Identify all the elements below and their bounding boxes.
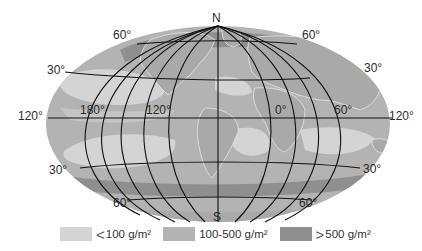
lon-label-60e: 60° bbox=[334, 104, 352, 116]
greater-than-symbol: > bbox=[316, 226, 325, 243]
lon-label-120e-left: 120° bbox=[18, 110, 43, 122]
lat-label-30n-left: 30° bbox=[47, 64, 65, 76]
legend-label-high: 500 g/m² bbox=[325, 228, 370, 240]
lat-label-30n-right: 30° bbox=[364, 62, 382, 74]
less-than-symbol: < bbox=[96, 226, 105, 243]
legend-swatch-low bbox=[60, 227, 92, 241]
lat-label-30s-right: 30° bbox=[363, 163, 381, 175]
lon-label-0: 0° bbox=[275, 104, 286, 116]
world-map bbox=[0, 0, 422, 251]
lat-label-60s-left: 60° bbox=[113, 197, 131, 209]
lat-label-60s-right: 60° bbox=[299, 197, 317, 209]
legend-swatch-mid bbox=[163, 227, 195, 241]
lat-label-60n-right: 60° bbox=[302, 29, 320, 41]
legend-label-low: 100 g/m² bbox=[106, 228, 151, 240]
legend-item-low: < 100 g/m² bbox=[60, 226, 151, 243]
lon-label-180: 180° bbox=[80, 104, 105, 116]
lat-label-30s-left: 30° bbox=[49, 164, 67, 176]
south-pole-label: S bbox=[213, 211, 221, 223]
legend: < 100 g/m² 100-500 g/m² > 500 g/m² bbox=[60, 226, 383, 242]
lat-label-60n-left: 60° bbox=[113, 29, 131, 41]
lon-label-120w: 120° bbox=[146, 104, 171, 116]
legend-label-mid: 100-500 g/m² bbox=[199, 228, 267, 240]
legend-item-mid: 100-500 g/m² bbox=[163, 227, 267, 241]
lon-label-120e-right: 120° bbox=[389, 110, 414, 122]
legend-item-high: > 500 g/m² bbox=[280, 226, 371, 243]
north-pole-label: N bbox=[212, 12, 221, 24]
legend-swatch-high bbox=[280, 227, 312, 241]
